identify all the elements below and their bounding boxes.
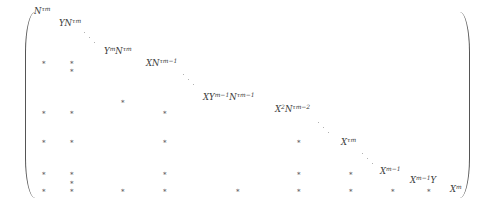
matrix-entry: YNτm xyxy=(59,18,81,28)
star-entry: * xyxy=(42,111,46,118)
matrix-entry: Nτm xyxy=(34,6,50,16)
matrix-entry: Xm xyxy=(450,184,462,194)
star-entry: * xyxy=(42,189,46,196)
ddots-icon xyxy=(183,74,197,88)
star-entry: * xyxy=(297,140,301,147)
star-entry: * xyxy=(121,189,125,196)
ddots-icon xyxy=(84,32,98,46)
star-entry: * xyxy=(349,172,353,179)
matrix-entry: Xm−1 xyxy=(380,166,401,176)
star-entry: * xyxy=(121,100,125,107)
star-entry: * xyxy=(42,140,46,147)
matrix-entry: YmNτm xyxy=(104,46,132,56)
star-entry: * xyxy=(297,189,301,196)
star-entry: * xyxy=(70,189,74,196)
star-entry: * xyxy=(70,181,74,188)
star-entry: * xyxy=(427,189,431,196)
star-entry: * xyxy=(42,61,46,68)
star-entry: * xyxy=(70,172,74,179)
left-parenthesis xyxy=(25,12,35,198)
right-parenthesis xyxy=(460,12,470,198)
star-entry: * xyxy=(70,111,74,118)
star-entry: * xyxy=(163,140,167,147)
star-entry: * xyxy=(163,111,167,118)
matrix-figure: NτmYNτmYmNτmXNτm−1XYm−1Nτm−1X2Nτm−2XτmXm… xyxy=(0,0,493,203)
matrix-entry: XYm−1Nτm−1 xyxy=(203,92,255,102)
matrix-entry: X2Nτm−2 xyxy=(275,104,310,114)
star-entry: * xyxy=(70,61,74,68)
star-entry: * xyxy=(349,189,353,196)
star-entry: * xyxy=(163,172,167,179)
matrix-entry: Xτm xyxy=(341,137,356,147)
matrix-entry: XNτm−1 xyxy=(146,58,177,68)
ddots-icon xyxy=(362,153,376,167)
star-entry: * xyxy=(70,69,74,76)
star-entry: * xyxy=(297,172,301,179)
star-entry: * xyxy=(163,189,167,196)
star-entry: * xyxy=(236,189,240,196)
star-entry: * xyxy=(70,140,74,147)
star-entry: * xyxy=(42,172,46,179)
matrix-entry: Xm−1Y xyxy=(410,175,436,185)
ddots-icon xyxy=(318,122,332,136)
star-entry: * xyxy=(391,189,395,196)
